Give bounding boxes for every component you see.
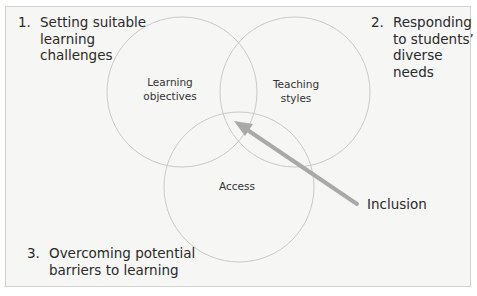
note-text: Responding to students’ diverse needs xyxy=(393,14,477,80)
label-teaching-styles: Teaching styles xyxy=(273,77,319,105)
label-learning-objectives: Learning objectives xyxy=(143,75,196,103)
note-diverse-needs: 2. Responding to students’ diverse needs xyxy=(371,14,477,80)
note-number: 3. xyxy=(27,245,49,278)
label-inclusion: Inclusion xyxy=(367,196,427,212)
note-number: 1. xyxy=(18,14,40,64)
label-access: Access xyxy=(219,179,255,193)
note-barriers: 3. Overcoming potential barriers to lear… xyxy=(27,245,195,278)
note-text: Overcoming potential barriers to learnin… xyxy=(49,245,195,278)
note-number: 2. xyxy=(371,14,393,80)
note-text: Setting suitable learning challenges xyxy=(40,14,146,64)
note-learning-challenges: 1. Setting suitable learning challenges xyxy=(18,14,146,64)
